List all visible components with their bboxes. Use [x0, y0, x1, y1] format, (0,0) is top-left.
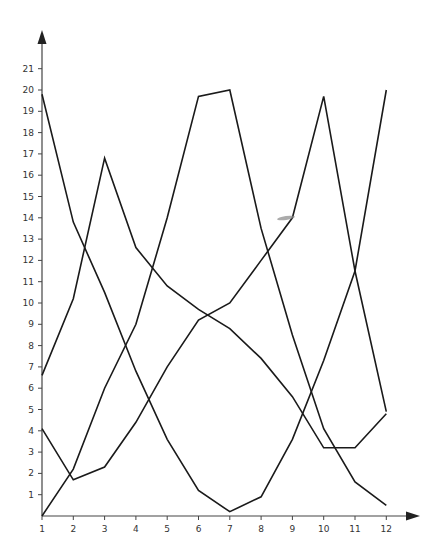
series-line-c — [42, 96, 386, 479]
line-chart: 123456789101112131415161718192021 123456… — [0, 0, 439, 560]
series-lines — [42, 90, 386, 516]
y-tick-label: 20 — [23, 85, 35, 95]
y-axis: 123456789101112131415161718192021 — [23, 30, 47, 516]
y-tick-label: 4 — [28, 426, 34, 436]
x-tick-label: 9 — [290, 524, 296, 534]
x-tick-label: 1 — [39, 524, 45, 534]
y-tick-label: 10 — [23, 298, 35, 308]
x-axis-arrow-icon — [406, 512, 420, 521]
y-tick-label: 9 — [28, 319, 34, 329]
x-tick-label: 3 — [102, 524, 108, 534]
x-ticks: 123456789101112 — [39, 516, 392, 534]
y-tick-label: 17 — [23, 149, 34, 159]
y-tick-label: 6 — [28, 383, 34, 393]
y-tick-label: 14 — [23, 213, 35, 223]
y-tick-label: 21 — [23, 64, 34, 74]
y-tick-label: 1 — [28, 490, 34, 500]
x-tick-label: 7 — [227, 524, 233, 534]
y-tick-label: 11 — [23, 277, 34, 287]
x-axis: 123456789101112 — [39, 512, 420, 535]
series-line-b — [42, 158, 386, 448]
x-tick-label: 2 — [70, 524, 76, 534]
y-tick-label: 16 — [23, 170, 35, 180]
x-tick-label: 11 — [349, 524, 360, 534]
y-tick-label: 12 — [23, 255, 34, 265]
y-tick-label: 19 — [23, 106, 35, 116]
x-tick-label: 4 — [133, 524, 139, 534]
y-ticks: 123456789101112131415161718192021 — [23, 64, 42, 500]
y-tick-label: 2 — [28, 468, 34, 478]
y-tick-label: 8 — [28, 341, 34, 351]
y-tick-label: 15 — [23, 192, 34, 202]
y-tick-label: 5 — [28, 405, 34, 415]
y-tick-label: 7 — [28, 362, 34, 372]
y-axis-arrow-icon — [38, 30, 47, 44]
x-tick-label: 6 — [196, 524, 202, 534]
x-tick-label: 8 — [258, 524, 264, 534]
y-tick-label: 18 — [23, 128, 35, 138]
x-tick-label: 5 — [164, 524, 170, 534]
y-tick-label: 13 — [23, 234, 34, 244]
x-tick-label: 10 — [318, 524, 330, 534]
y-tick-label: 3 — [28, 447, 34, 457]
x-tick-label: 12 — [381, 524, 392, 534]
